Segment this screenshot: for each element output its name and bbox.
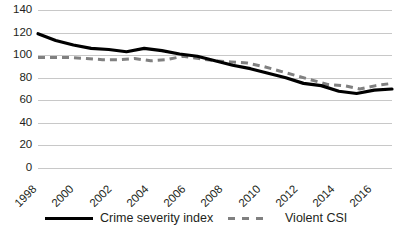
y-tick-label-60: 60 — [0, 94, 32, 106]
x-tick-label-2000: 2000 — [50, 183, 76, 209]
x-tick-label-2016: 2016 — [348, 183, 374, 209]
x-tick-label-2002: 2002 — [87, 183, 113, 209]
plot-area — [38, 10, 392, 168]
legend-item-crime-severity-index: Crime severity index — [45, 209, 213, 227]
legend-swatch-dashed-line-icon — [228, 217, 276, 220]
y-tick-label-120: 120 — [0, 27, 32, 39]
x-tick-label-2006: 2006 — [162, 183, 188, 209]
x-tick-label-2014: 2014 — [311, 183, 337, 209]
x-tick-label-2012: 2012 — [274, 183, 300, 209]
x-tick-label-2004: 2004 — [125, 183, 151, 209]
y-tick-label-40: 40 — [0, 117, 32, 129]
x-tick-label-1998: 1998 — [13, 183, 39, 209]
x-axis: 1998200020022004200620082010201220142016 — [0, 172, 399, 212]
gridline-0 — [38, 168, 392, 169]
y-tick-label-100: 100 — [0, 49, 32, 61]
y-tick-label-140: 140 — [0, 4, 32, 16]
legend-item-violent-csi: Violent CSI — [228, 209, 347, 227]
series-layer — [38, 10, 392, 168]
legend-swatch-solid-line-icon — [45, 217, 93, 220]
y-tick-label-20: 20 — [0, 139, 32, 151]
y-tick-label-80: 80 — [0, 72, 32, 84]
x-tick-label-2008: 2008 — [199, 183, 225, 209]
legend-label-crime-severity-index: Crime severity index — [100, 212, 213, 225]
legend-label-violent-csi: Violent CSI — [285, 212, 347, 225]
chart-legend: Crime severity index Violent CSI — [0, 209, 399, 232]
x-tick-label-2010: 2010 — [236, 183, 262, 209]
line-chart: 140120100806040200 199820002002200420062… — [0, 0, 399, 232]
